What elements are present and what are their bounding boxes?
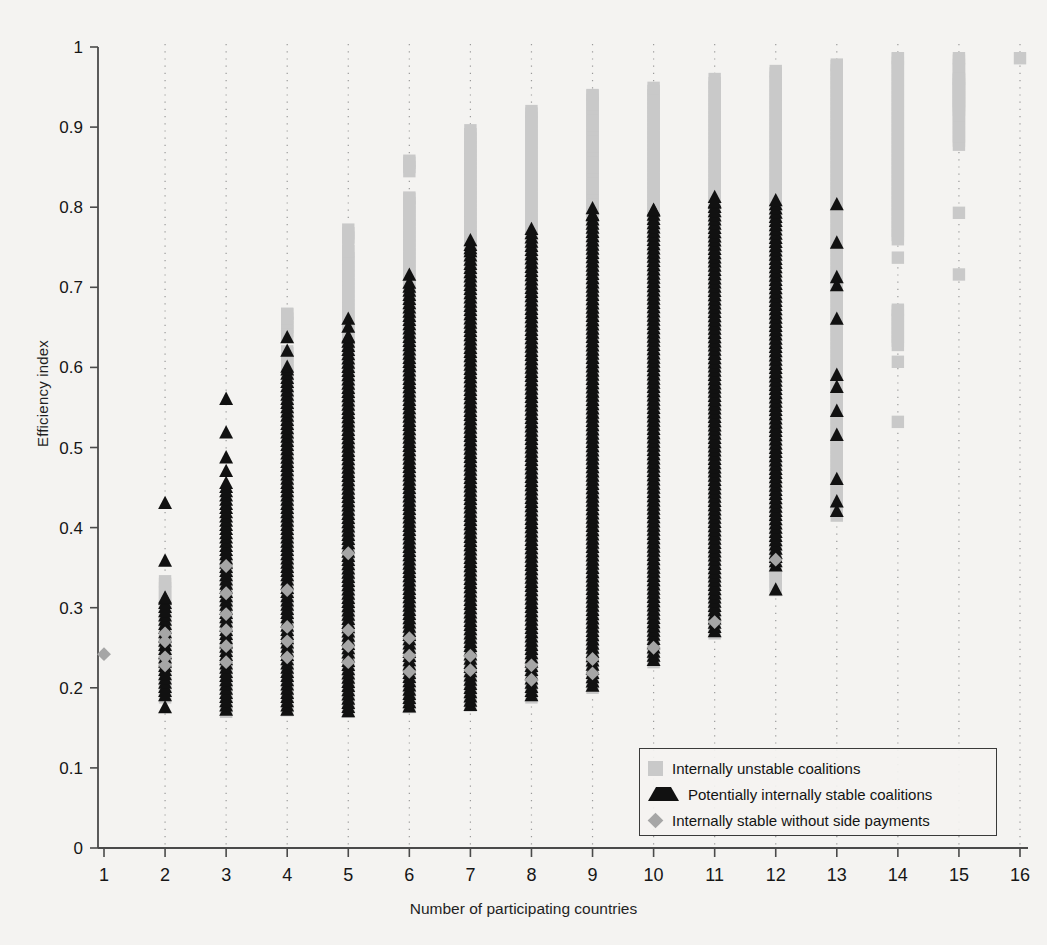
data-point (525, 105, 537, 117)
diamond-marker-icon (648, 812, 664, 828)
y-tick-label-0.1: 0.1 (59, 759, 83, 778)
x-tick-label-12: 12 (766, 865, 786, 885)
axis-lines (98, 47, 1028, 848)
x-tick-label-14: 14 (888, 865, 908, 885)
legend-item-potentially-stable: Potentially internally stable coalitions (648, 781, 996, 807)
legend-label-unstable: Internally unstable coalitions (672, 761, 860, 776)
legend-label-potentially-stable: Potentially internally stable coalitions (688, 787, 932, 802)
data-point (342, 223, 354, 235)
data-point (892, 251, 904, 263)
data-point (219, 450, 233, 463)
data-point (892, 52, 904, 64)
y-tick-label-0.9: 0.9 (59, 118, 83, 137)
x-axis-title: Number of participating countries (0, 900, 1047, 918)
data-point (953, 268, 965, 280)
data-point (770, 65, 782, 77)
triangle-marker-icon (648, 787, 679, 801)
data-point (97, 647, 111, 661)
x-tick-label-6: 6 (404, 865, 414, 885)
chart-canvas: 00.10.20.30.40.50.60.70.80.91 1234567891… (0, 0, 1047, 945)
data-point (219, 476, 233, 489)
data-point (281, 308, 293, 320)
data-point (953, 207, 965, 219)
x-tick-label-15: 15 (949, 865, 969, 885)
x-tick-label-2: 2 (160, 865, 170, 885)
x-tick-label-5: 5 (343, 865, 353, 885)
x-tick-label-11: 11 (705, 865, 724, 885)
y-tick-labels: 00.10.20.30.40.50.60.70.80.91 (59, 38, 98, 858)
data-point (953, 73, 965, 85)
x-tick-label-9: 9 (588, 865, 598, 885)
legend-label-stable-no-side-payments: Internally stable without side payments (672, 813, 930, 828)
data-point (158, 553, 172, 566)
data-point (219, 425, 233, 438)
y-tick-label-0.7: 0.7 (59, 278, 83, 297)
data-point (708, 73, 720, 85)
square-marker-icon (648, 761, 663, 776)
data-point (464, 124, 476, 136)
series-potentially-stable (158, 190, 844, 718)
data-point (159, 575, 171, 587)
data-point (403, 191, 415, 203)
data-point (953, 52, 965, 64)
data-point (647, 82, 659, 94)
x-tick-label-10: 10 (644, 865, 664, 885)
y-tick-label-0: 0 (74, 839, 83, 858)
data-point (892, 416, 904, 428)
series-internally-stable (97, 546, 783, 686)
data-point (831, 58, 843, 70)
y-tick-label-0.4: 0.4 (59, 519, 83, 538)
data-point (219, 464, 233, 477)
y-tick-label-0.3: 0.3 (59, 599, 83, 618)
x-tick-label-1: 1 (99, 865, 109, 885)
x-tick-label-4: 4 (282, 865, 292, 885)
data-point (1014, 52, 1026, 64)
x-tick-label-13: 13 (827, 865, 847, 885)
x-tick-labels: 12345678910111213141516 (99, 848, 1030, 885)
legend-item-unstable: Internally unstable coalitions (648, 755, 996, 781)
x-tick-label-3: 3 (221, 865, 231, 885)
data-point (219, 392, 233, 405)
y-tick-label-0.8: 0.8 (59, 198, 83, 217)
x-tick-label-8: 8 (526, 865, 536, 885)
data-point (892, 356, 904, 368)
data-point (892, 304, 904, 316)
data-point (586, 89, 598, 101)
y-tick-label-0.2: 0.2 (59, 679, 83, 698)
x-tick-label-16: 16 (1010, 865, 1030, 885)
data-point (158, 496, 172, 509)
y-tick-label-1: 1 (74, 38, 83, 57)
y-tick-label-0.5: 0.5 (59, 439, 83, 458)
y-axis-title: Efficiency index (34, 314, 51, 474)
data-point (403, 155, 415, 167)
x-tick-label-7: 7 (465, 865, 475, 885)
legend: Internally unstable coalitions Potential… (639, 748, 997, 836)
legend-item-stable-no-side-payments: Internally stable without side payments (648, 807, 996, 833)
y-tick-label-0.6: 0.6 (59, 358, 83, 377)
